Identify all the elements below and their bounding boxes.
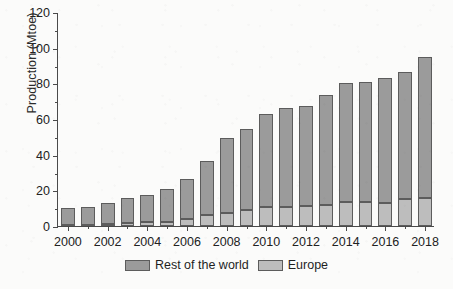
bar-segment-europe[interactable] xyxy=(378,203,392,226)
bar-segment-europe[interactable] xyxy=(220,213,234,226)
x-axis-minor-tick xyxy=(247,226,248,229)
bar-stack[interactable] xyxy=(378,78,392,226)
bar-stack[interactable] xyxy=(121,198,135,226)
bar-segment-europe[interactable] xyxy=(101,224,115,226)
chart-legend: Rest of the worldEurope xyxy=(0,258,453,272)
x-axis-minor-tick xyxy=(88,226,89,229)
bar-segment-europe[interactable] xyxy=(279,207,293,226)
x-axis-tick-label: 2014 xyxy=(332,235,360,249)
legend-label: Rest of the world xyxy=(155,258,249,272)
bar-segment-rest-of-the-world[interactable] xyxy=(180,179,194,219)
bar-stack[interactable] xyxy=(61,208,75,226)
bar-segment-rest-of-the-world[interactable] xyxy=(240,129,254,210)
x-axis-tick xyxy=(306,226,307,231)
bar-segment-europe[interactable] xyxy=(299,206,313,226)
bars-layer xyxy=(58,13,434,226)
bar-segment-rest-of-the-world[interactable] xyxy=(398,72,412,200)
x-axis-minor-tick xyxy=(366,226,367,229)
x-axis-tick-label: 2012 xyxy=(292,235,320,249)
bar-segment-europe[interactable] xyxy=(200,215,214,226)
bar-segment-europe[interactable] xyxy=(121,223,135,226)
bar-stack[interactable] xyxy=(418,57,432,226)
bar-segment-europe[interactable] xyxy=(319,205,333,226)
bar-stack[interactable] xyxy=(101,203,115,226)
bar-stack[interactable] xyxy=(140,195,154,226)
x-axis-tick xyxy=(187,226,188,231)
y-axis-tick-label: 60 xyxy=(36,113,50,127)
bar-segment-rest-of-the-world[interactable] xyxy=(279,108,293,207)
x-axis-tick xyxy=(68,226,69,231)
bar-stack[interactable] xyxy=(220,138,234,226)
x-axis-tick-label: 2000 xyxy=(54,235,82,249)
bar-segment-rest-of-the-world[interactable] xyxy=(61,208,75,225)
bar-segment-europe[interactable] xyxy=(61,224,75,226)
bar-segment-rest-of-the-world[interactable] xyxy=(259,114,273,208)
bar-segment-rest-of-the-world[interactable] xyxy=(160,189,174,222)
bar-segment-rest-of-the-world[interactable] xyxy=(319,95,333,205)
y-axis-tick-label: 120 xyxy=(29,6,50,20)
x-axis-minor-tick xyxy=(207,226,208,229)
legend-swatch-rest xyxy=(125,260,150,271)
y-axis-tick-label: 0 xyxy=(43,220,50,234)
bar-segment-europe[interactable] xyxy=(398,199,412,226)
bar-segment-rest-of-the-world[interactable] xyxy=(200,161,214,215)
bar-stack[interactable] xyxy=(279,108,293,226)
bar-segment-europe[interactable] xyxy=(418,198,432,226)
y-axis-tick-label: 40 xyxy=(36,149,50,163)
x-axis-tick xyxy=(227,226,228,231)
x-axis-tick-label: 2004 xyxy=(133,235,161,249)
bar-stack[interactable] xyxy=(319,95,333,226)
x-axis-tick-label: 2018 xyxy=(411,235,439,249)
bar-segment-europe[interactable] xyxy=(81,224,95,226)
bar-stack[interactable] xyxy=(200,161,214,226)
x-axis-minor-tick xyxy=(167,226,168,229)
bar-stack[interactable] xyxy=(398,72,412,226)
bar-segment-europe[interactable] xyxy=(240,210,254,226)
bar-segment-europe[interactable] xyxy=(160,222,174,226)
x-axis-minor-tick xyxy=(326,226,327,229)
y-axis-tick-label: 20 xyxy=(36,184,50,198)
y-axis-tick-label: 80 xyxy=(36,77,50,91)
x-axis-minor-tick xyxy=(405,226,406,229)
bar-segment-rest-of-the-world[interactable] xyxy=(140,195,154,223)
bar-segment-rest-of-the-world[interactable] xyxy=(359,82,373,201)
bar-segment-rest-of-the-world[interactable] xyxy=(121,198,135,223)
x-axis-tick xyxy=(147,226,148,231)
bar-stack[interactable] xyxy=(160,189,174,226)
bar-stack[interactable] xyxy=(259,114,273,226)
bar-stack[interactable] xyxy=(81,207,95,226)
bar-segment-rest-of-the-world[interactable] xyxy=(101,203,115,224)
bar-stack[interactable] xyxy=(180,179,194,226)
bar-segment-rest-of-the-world[interactable] xyxy=(81,207,95,225)
bar-segment-europe[interactable] xyxy=(339,202,353,226)
bar-segment-rest-of-the-world[interactable] xyxy=(299,106,313,207)
y-axis-tick xyxy=(53,227,58,228)
x-axis-tick-label: 2016 xyxy=(371,235,399,249)
bar-segment-europe[interactable] xyxy=(359,202,373,226)
x-axis-tick xyxy=(266,226,267,231)
bar-stack[interactable] xyxy=(240,129,254,226)
x-axis-tick-label: 2008 xyxy=(213,235,241,249)
legend-entry[interactable]: Rest of the world xyxy=(125,258,249,272)
bar-stack[interactable] xyxy=(359,82,373,226)
stacked-bar-chart: Production (Mtoe) 0204060801001202000200… xyxy=(0,0,453,289)
x-axis-tick-label: 2002 xyxy=(94,235,122,249)
bar-segment-rest-of-the-world[interactable] xyxy=(339,83,353,202)
bar-stack[interactable] xyxy=(299,106,313,226)
legend-swatch-europe xyxy=(258,260,283,271)
x-axis-minor-tick xyxy=(127,226,128,229)
x-axis-minor-tick xyxy=(286,226,287,229)
bar-segment-rest-of-the-world[interactable] xyxy=(220,138,234,213)
plot-area: 0204060801001202000200220042006200820102… xyxy=(57,13,434,227)
x-axis-tick xyxy=(108,226,109,231)
bar-segment-europe[interactable] xyxy=(180,219,194,226)
legend-label: Europe xyxy=(288,258,328,272)
bar-segment-europe[interactable] xyxy=(140,222,154,226)
x-axis-tick xyxy=(385,226,386,231)
bar-stack[interactable] xyxy=(339,83,353,226)
bar-segment-rest-of-the-world[interactable] xyxy=(378,78,392,203)
x-axis-tick xyxy=(346,226,347,231)
bar-segment-rest-of-the-world[interactable] xyxy=(418,57,432,199)
bar-segment-europe[interactable] xyxy=(259,207,273,226)
legend-entry[interactable]: Europe xyxy=(258,258,328,272)
